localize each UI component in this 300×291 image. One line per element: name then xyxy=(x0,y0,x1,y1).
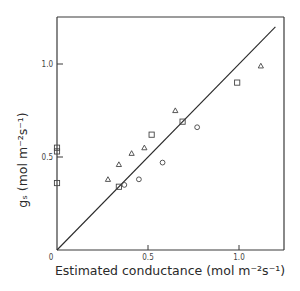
data-markers xyxy=(54,63,263,189)
data-point-triangle xyxy=(129,151,134,156)
x-tick-label: 0 xyxy=(49,253,54,262)
x-tick-label: 0.5 xyxy=(142,253,153,262)
x-axis-label: Estimated conductance (mol m⁻²s⁻¹) xyxy=(55,263,285,278)
data-point-triangle xyxy=(105,177,110,182)
data-point-square xyxy=(235,80,240,85)
y-tick-label: 1.0 xyxy=(42,60,54,69)
data-point-circle xyxy=(122,183,127,188)
x-ticks: 00.51.0 xyxy=(49,245,245,262)
data-point-square xyxy=(149,132,154,137)
x-tick-label: 1.0 xyxy=(233,253,245,262)
y-tick-label: 0.5 xyxy=(42,153,53,162)
data-point-circle xyxy=(160,160,165,165)
data-point-triangle xyxy=(142,145,147,150)
chart: 00.51.0 0.51.0 Estimated conductance (mo… xyxy=(0,0,300,291)
data-point-triangle xyxy=(173,108,178,113)
y-axis-label: gₛ (mol m⁻²s⁻¹) xyxy=(15,112,30,208)
data-point-circle xyxy=(195,125,200,130)
data-point-triangle xyxy=(258,63,263,68)
one-to-one-line xyxy=(57,27,275,250)
data-point-triangle xyxy=(116,162,121,167)
data-point-circle xyxy=(137,177,142,182)
